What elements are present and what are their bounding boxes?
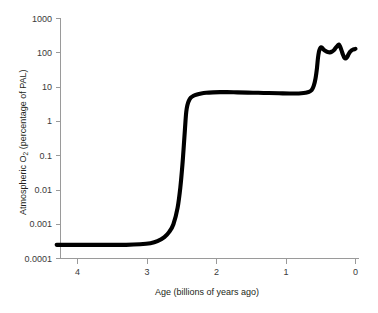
y-axis-ticks [56, 19, 61, 259]
y-tick-label: 0.1 [39, 151, 52, 161]
y-axis-title-main: Atmospheric O [18, 155, 28, 215]
x-tick-label: 3 [144, 267, 149, 277]
y-axis-tick-labels: 1000 100 10 1 0.1 0.01 0.001 0.0001 [24, 14, 52, 264]
chart-canvas: Atmospheric O2 (percentage of PAL) 1000 … [0, 0, 378, 313]
svg-text:Atmospheric O2 (percentage of: Atmospheric O2 (percentage of PAL) [18, 69, 29, 215]
x-tick-label: 0 [353, 267, 358, 277]
oxygen-curve [57, 44, 356, 244]
y-tick-label: 10 [42, 82, 52, 92]
x-tick-label: 2 [214, 267, 219, 277]
y-axis-title: Atmospheric O2 (percentage of PAL) [18, 69, 29, 215]
y-tick-label: 1 [47, 116, 52, 126]
oxygen-history-figure: Atmospheric O2 (percentage of PAL) 1000 … [0, 0, 378, 313]
x-axis-tick-labels: 4 3 2 1 0 [75, 267, 358, 277]
x-axis-title: Age (billions of years ago) [155, 287, 259, 297]
x-tick-label: 1 [283, 267, 288, 277]
x-tick-label: 4 [75, 267, 80, 277]
y-tick-label: 100 [37, 48, 52, 58]
y-tick-label: 1000 [32, 14, 52, 24]
y-axis-title-rest: (percentage of PAL) [18, 69, 28, 151]
y-tick-label: 0.01 [34, 185, 52, 195]
y-tick-label: 0.0001 [24, 254, 52, 264]
x-axis-ticks [78, 259, 356, 264]
y-tick-label: 0.001 [29, 219, 52, 229]
